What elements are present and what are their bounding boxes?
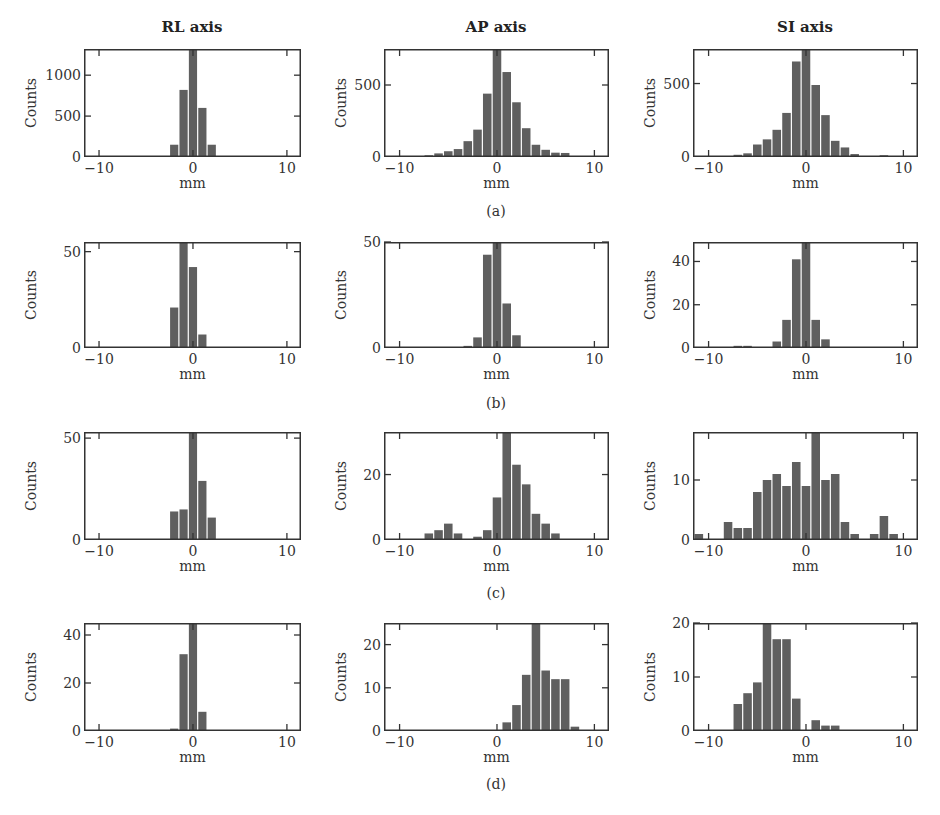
histogram-bar <box>473 130 482 157</box>
y-axis-label: Counts <box>333 461 349 511</box>
x-tick-label: 0 <box>802 734 811 750</box>
histogram-bar <box>821 480 830 540</box>
histogram-bar <box>444 524 453 540</box>
histogram-bar <box>763 139 772 157</box>
x-axis-label: mm <box>792 366 819 382</box>
x-tick-label: 0 <box>802 351 811 367</box>
x-tick-label: −10 <box>694 734 724 750</box>
x-tick-label: 0 <box>189 351 198 367</box>
histogram-bar <box>880 516 889 540</box>
histogram-bar <box>541 524 550 540</box>
x-tick-label: 0 <box>802 543 811 559</box>
histogram-bar <box>734 704 743 731</box>
histogram-bar <box>532 514 541 540</box>
histogram-bar <box>753 682 762 731</box>
row-label-b: (b) <box>476 395 516 411</box>
histogram-bar <box>189 267 197 348</box>
x-tick-label: −10 <box>84 351 114 367</box>
x-tick-label: −10 <box>694 351 724 367</box>
x-tick-label: 10 <box>278 734 296 750</box>
histogram-c-ap: −10010020mmCounts <box>384 432 609 540</box>
x-tick-label: 0 <box>189 734 198 750</box>
y-tick-label: 50 <box>363 234 381 250</box>
x-tick-label: 0 <box>493 351 502 367</box>
x-tick-label: −10 <box>84 543 114 559</box>
x-axis-label: mm <box>179 558 206 574</box>
bars <box>425 432 560 540</box>
bars <box>695 432 898 540</box>
bars <box>170 623 206 731</box>
histogram-bar <box>763 623 772 731</box>
bars <box>170 432 216 540</box>
x-tick-label: −10 <box>385 734 415 750</box>
x-tick-label: 10 <box>894 543 912 559</box>
bars <box>734 242 830 348</box>
histogram-bar <box>522 675 531 731</box>
histogram-bar <box>502 432 511 540</box>
histogram-bar <box>493 242 502 348</box>
histogram-bar <box>179 654 187 731</box>
histogram-bar <box>811 432 820 540</box>
histogram-bar <box>170 308 178 348</box>
histogram-bar <box>792 699 801 731</box>
x-tick-label: 0 <box>802 160 811 176</box>
histogram-bar <box>512 465 521 540</box>
x-tick-label: −10 <box>694 543 724 559</box>
plot-frame <box>694 624 918 731</box>
bars <box>502 623 579 731</box>
y-axis-label: Counts <box>23 270 39 320</box>
x-tick-label: 10 <box>894 351 912 367</box>
histogram-bar <box>198 108 206 157</box>
bars <box>724 49 898 157</box>
histogram-bar <box>170 511 178 540</box>
row-label-a: (a) <box>476 203 516 219</box>
x-tick-label: −10 <box>385 543 415 559</box>
histogram-bar <box>473 337 482 348</box>
y-tick-label: 500 <box>354 77 381 93</box>
histogram-d-rl: −1001002040mmCounts <box>84 623 301 731</box>
y-tick-label: 1000 <box>45 67 81 83</box>
histogram-bar <box>821 115 830 157</box>
y-axis-label: Counts <box>23 461 39 511</box>
y-tick-label: 20 <box>672 615 690 631</box>
x-tick-label: 0 <box>189 160 198 176</box>
row-label-d: (d) <box>476 776 516 792</box>
histogram-bar <box>772 130 781 157</box>
histogram-bar <box>753 492 762 540</box>
histogram-bar <box>198 712 206 731</box>
histogram-bar <box>189 49 197 157</box>
y-tick-label: 10 <box>672 669 690 685</box>
x-axis-label: mm <box>483 749 510 765</box>
y-tick-label: 50 <box>63 244 81 260</box>
y-tick-label: 0 <box>372 723 381 739</box>
histogram-bar <box>463 141 472 157</box>
histogram-bar <box>532 145 541 157</box>
histogram-a-rl: −1001005001000mmCounts <box>84 49 301 157</box>
y-tick-label: 0 <box>681 723 690 739</box>
y-axis-label: Counts <box>23 78 39 128</box>
x-tick-label: 10 <box>894 734 912 750</box>
histogram-bar <box>831 141 840 157</box>
y-tick-label: 0 <box>681 149 690 165</box>
histogram-bar <box>512 335 521 348</box>
x-tick-label: 10 <box>278 543 296 559</box>
histogram-c-rl: −10010050mmCounts <box>84 432 301 540</box>
y-tick-label: 0 <box>372 149 381 165</box>
x-tick-label: −10 <box>385 160 415 176</box>
histogram-bar <box>772 474 781 540</box>
y-tick-label: 500 <box>663 76 690 92</box>
histogram-bar <box>483 94 492 157</box>
y-tick-label: 50 <box>63 430 81 446</box>
y-axis-label: Counts <box>642 270 658 320</box>
y-axis-label: Counts <box>642 78 658 128</box>
histogram-bar <box>532 623 541 731</box>
histogram-bar <box>483 255 492 348</box>
histogram-a-ap: −100100500mmCounts <box>384 49 609 157</box>
x-tick-label: 0 <box>189 543 198 559</box>
histogram-bar <box>743 528 752 540</box>
y-axis-label: Counts <box>333 652 349 702</box>
x-tick-label: −10 <box>84 734 114 750</box>
x-tick-label: 0 <box>493 160 502 176</box>
histogram-c-si: −10010010mmCounts <box>693 432 918 540</box>
y-axis-label: Counts <box>642 461 658 511</box>
